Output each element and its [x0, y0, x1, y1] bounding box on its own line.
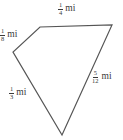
fraction-top: 1 4: [58, 2, 63, 16]
fraction-right: 5 12: [91, 70, 100, 84]
unit: mi: [102, 72, 112, 82]
unit: mi: [7, 30, 17, 40]
side-label-upper-left: 1 8 mi: [0, 28, 17, 42]
side-label-right: 5 12 mi: [91, 70, 112, 84]
denominator: 12: [91, 78, 100, 85]
fraction-lower-left: 1 3: [9, 86, 14, 100]
side-label-lower-left: 1 3 mi: [9, 86, 26, 100]
denominator: 3: [9, 94, 14, 101]
unit: mi: [16, 88, 26, 98]
unit: mi: [65, 4, 75, 14]
denominator: 8: [0, 36, 5, 43]
denominator: 4: [58, 10, 63, 17]
side-label-top: 1 4 mi: [58, 2, 75, 16]
fraction-upper-left: 1 8: [0, 28, 5, 42]
